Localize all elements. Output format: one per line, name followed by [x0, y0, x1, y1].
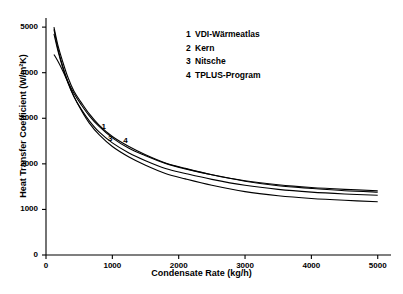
legend-item-1-number: 1: [186, 28, 195, 42]
legend-item-4: 4TPLUS-Program: [186, 69, 261, 83]
chart-legend: 1VDI-Wärmeatlas 2Kern 3Nitsche 4TPLUS-Pr…: [186, 28, 261, 82]
y-axis-title: Heat Transfer Coefficient (W/m²K): [18, 36, 28, 216]
legend-item-3-label: Nitsche: [195, 56, 226, 66]
x-tick-label: 2000: [162, 261, 196, 270]
y-tick-label: 4000: [4, 68, 38, 77]
y-tick-label: 0: [4, 250, 38, 259]
x-tick-label: 5000: [361, 261, 395, 270]
y-tick-label: 3000: [4, 113, 38, 122]
legend-item-1: 1VDI-Wärmeatlas: [186, 28, 261, 42]
y-tick-label: 5000: [4, 22, 38, 31]
legend-item-2-number: 2: [186, 42, 195, 56]
legend-item-3-number: 3: [186, 55, 195, 69]
y-tick-label: 1000: [4, 204, 38, 213]
legend-item-3: 3Nitsche: [186, 55, 261, 69]
curve-number-label: 3: [108, 134, 112, 143]
legend-item-1-label: VDI-Wärmeatlas: [195, 29, 260, 39]
legend-item-2-label: Kern: [195, 43, 214, 53]
x-tick-label: 4000: [294, 261, 328, 270]
curve-number-label: 4: [123, 136, 127, 145]
chart-container: 1VDI-Wärmeatlas 2Kern 3Nitsche 4TPLUS-Pr…: [0, 0, 403, 294]
legend-item-4-label: TPLUS-Program: [195, 70, 261, 80]
legend-item-4-number: 4: [186, 69, 195, 83]
x-tick-label: 3000: [228, 261, 262, 270]
curve-number-label: 1: [101, 122, 105, 131]
x-tick-label: 1000: [95, 261, 129, 270]
x-tick-label: 0: [29, 261, 63, 270]
y-tick-label: 2000: [4, 159, 38, 168]
legend-item-2: 2Kern: [186, 42, 261, 56]
